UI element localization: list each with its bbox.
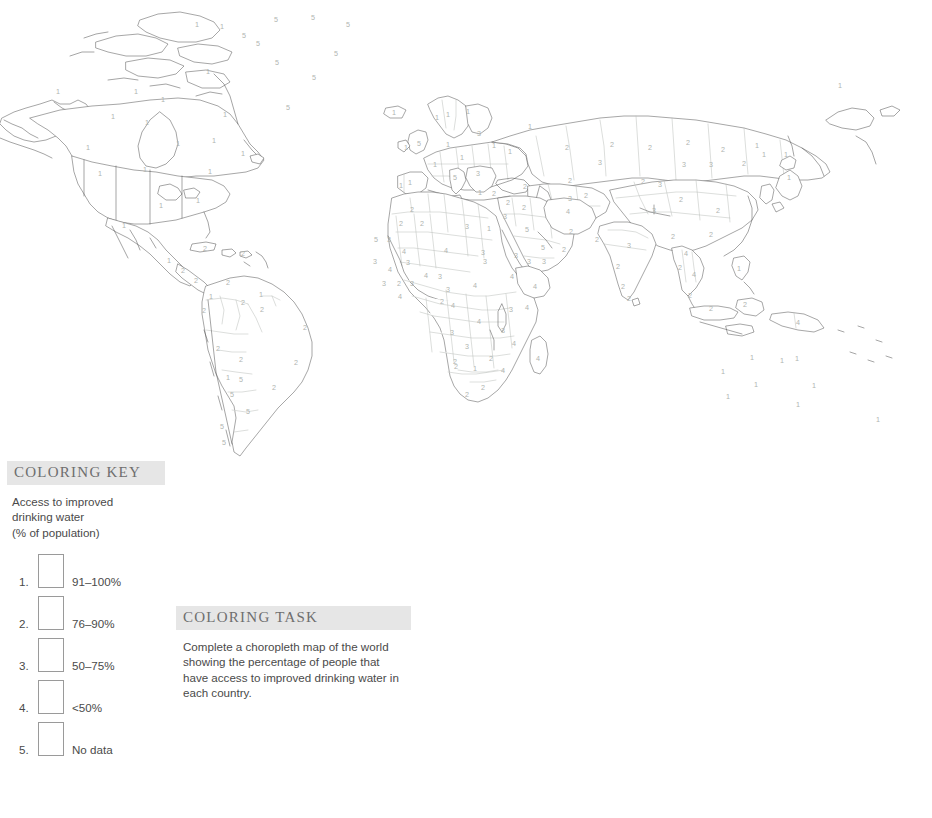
coloring-key-header: COLORING KEY [7, 461, 165, 485]
country-number: 3 [509, 305, 513, 314]
country-number: 3 [682, 160, 686, 169]
country-number: 5 [274, 15, 278, 24]
legend-swatch-4[interactable] [38, 680, 64, 714]
country-number: 5 [242, 31, 246, 40]
country-number: 2 [194, 276, 198, 285]
country-number: 2 [671, 232, 675, 241]
country-number: 5 [239, 375, 243, 384]
country-number: 1 [208, 167, 212, 176]
country-number: 1 [784, 150, 788, 159]
country-number: 1 [508, 147, 512, 156]
coloring-key-subtitle: Access to improved drinking water (% of … [12, 494, 187, 540]
legend-swatch-5[interactable] [38, 722, 64, 756]
country-number: 1 [876, 415, 880, 424]
country-number: 1 [98, 169, 102, 178]
legend-item-2-index: 2. [19, 617, 29, 630]
country-number: 1 [392, 108, 396, 117]
country-number: 4 [684, 249, 688, 258]
country-number: 3 [382, 279, 386, 288]
north-america-group [0, 12, 268, 294]
country-number: 2 [721, 145, 725, 154]
country-number: 3 [446, 285, 450, 294]
country-number: 5 [246, 407, 250, 416]
country-number: 4 [473, 281, 477, 290]
country-number: 2 [565, 143, 569, 152]
legend-swatch-2[interactable] [38, 596, 64, 630]
country-number: 2 [584, 191, 588, 200]
country-number: 1 [473, 364, 477, 373]
legend-item-1-label: 91–100% [72, 575, 121, 588]
country-number: 2 [621, 282, 625, 291]
country-number: 1 [161, 95, 165, 104]
country-number: 2 [465, 390, 469, 399]
country-number: 2 [216, 344, 220, 353]
coloring-task-panel: COLORING TASK Complete a choropleth map … [176, 606, 426, 701]
country-number: 2 [709, 304, 713, 313]
country-number: 2 [202, 306, 206, 315]
world-map-panel: 1111111111115555555551111111122221212222… [0, 0, 932, 470]
country-number: 1 [754, 380, 758, 389]
country-number: 2 [481, 383, 485, 392]
country-number: 2 [709, 230, 713, 239]
country-number: 1 [487, 224, 491, 233]
country-number: 5 [334, 49, 338, 58]
country-number: 1 [446, 140, 450, 149]
country-number: 4 [444, 246, 448, 255]
country-number: 4 [796, 318, 800, 327]
legend-swatch-1[interactable] [38, 554, 64, 588]
coloring-key-subtitle-line-1: Access to improved [12, 494, 187, 509]
country-number: 1 [195, 20, 199, 29]
country-number: 3 [514, 251, 518, 260]
country-number: 2 [641, 177, 645, 186]
country-number: 3 [465, 222, 469, 231]
country-number: 2 [420, 219, 424, 228]
country-number: 1 [259, 290, 263, 299]
legend-item-5-label: No data [72, 743, 113, 756]
country-number: 2 [492, 189, 496, 198]
country-number: 5 [275, 58, 279, 67]
country-number: 2 [678, 263, 682, 272]
country-number: 1 [212, 136, 216, 145]
country-number: 3 [709, 160, 713, 169]
country-number: 3 [476, 169, 480, 178]
country-number: 1 [399, 181, 403, 190]
country-number: 4 [566, 207, 570, 216]
country-number: 4 [512, 339, 516, 348]
country-number: 3 [450, 328, 454, 337]
country-number: 2 [440, 297, 444, 306]
country-number: 1 [492, 141, 496, 150]
country-number: 2 [489, 354, 493, 363]
country-number: 1 [134, 87, 138, 96]
legend-item-2: 2. 76–90% [7, 596, 187, 638]
country-number: 2 [616, 262, 620, 271]
country-number: 2 [399, 219, 403, 228]
country-number: 3 [483, 257, 487, 266]
legend-item-4-label: <50% [72, 701, 102, 714]
country-number: 1 [176, 139, 180, 148]
country-number: 5 [311, 13, 315, 22]
country-number: 4 [501, 366, 505, 375]
country-number: 1 [404, 143, 408, 152]
country-number: 5 [222, 438, 226, 447]
middle-east-group [498, 196, 596, 272]
country-number: 2 [688, 291, 692, 300]
country-number: 3 [568, 194, 572, 203]
country-number: 1 [780, 356, 784, 365]
country-number: 2 [272, 383, 276, 392]
country-number: 2 [627, 294, 631, 303]
legend-item-4: 4. <50% [7, 680, 187, 722]
country-number: 1 [209, 292, 213, 301]
country-number: 5 [417, 139, 421, 148]
legend-item-5-index: 5. [19, 743, 29, 756]
country-number: 4 [451, 301, 455, 310]
country-number: 3 [465, 342, 469, 351]
legend-swatch-3[interactable] [38, 638, 64, 672]
country-number: 1 [111, 112, 115, 121]
country-number: 2 [241, 298, 245, 307]
country-number: 3 [438, 272, 442, 281]
country-number: 1 [528, 122, 532, 131]
coloring-key-subtitle-line-3: (% of population) [12, 525, 187, 540]
country-number: 4 [402, 247, 406, 256]
country-number: 3 [652, 206, 656, 215]
country-number: 2 [742, 159, 746, 168]
